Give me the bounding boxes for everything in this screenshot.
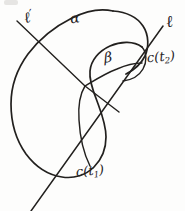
geometry-drawing (0, 0, 185, 211)
inner-notch-curve (79, 86, 90, 166)
point-c-t2-label: c(t2) (146, 49, 175, 67)
figure-canvas: ℓ′ ℓ α β c(t2) c(t1) (0, 0, 185, 211)
point-c-t1-head: c(t (75, 163, 94, 179)
point-c-t1-label: c(t1) (75, 163, 104, 181)
arc-alpha-label: α (69, 10, 80, 25)
point-c-t2-head: c(t (146, 49, 165, 65)
segment-center-to-line-ell (85, 86, 119, 112)
arc-beta-label: β (103, 50, 113, 65)
